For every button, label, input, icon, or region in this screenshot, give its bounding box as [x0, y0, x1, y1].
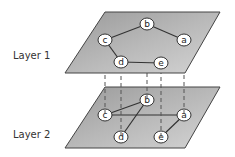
- node-e: e: [154, 57, 168, 69]
- svg-text:c: c: [103, 35, 108, 45]
- node-b: b: [140, 18, 154, 30]
- svg-text:e: e: [158, 58, 164, 68]
- svg-text:a: a: [181, 35, 187, 45]
- multilayer-network-diagram: abcde abcde: [0, 0, 235, 157]
- svg-text:d: d: [118, 57, 124, 67]
- svg-text:b: b: [144, 19, 150, 29]
- layer-1-plane: abcde: [65, 12, 220, 73]
- layer-2-plane: abcde: [65, 87, 220, 148]
- node-c: c: [98, 34, 112, 46]
- node-d: d: [114, 56, 128, 68]
- node-a: a: [177, 34, 191, 46]
